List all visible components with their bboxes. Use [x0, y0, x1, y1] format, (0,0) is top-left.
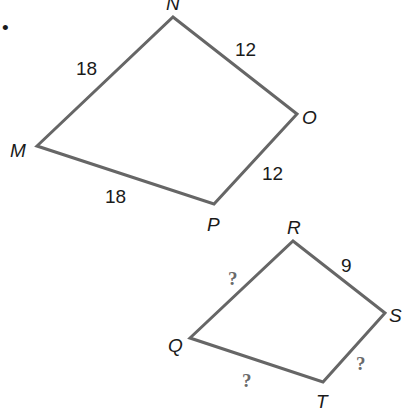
- side-tq-unknown: ?: [242, 370, 252, 391]
- side-mn-length: 18: [76, 58, 97, 79]
- bullet-dot: •: [2, 17, 9, 38]
- side-st-unknown: ?: [356, 353, 366, 374]
- side-qr-unknown: ?: [228, 268, 238, 289]
- side-op-length: 12: [262, 163, 283, 184]
- side-rs-length: 9: [341, 255, 352, 276]
- vertex-m-label: M: [10, 140, 26, 161]
- vertex-n-label: N: [166, 0, 180, 14]
- vertex-q-label: Q: [168, 335, 183, 356]
- kite-mnop: [37, 17, 297, 204]
- side-no-length: 12: [235, 39, 256, 60]
- vertex-r-label: R: [287, 217, 301, 238]
- side-pm-length: 18: [105, 186, 126, 207]
- vertex-s-label: S: [389, 305, 402, 326]
- vertex-p-label: P: [207, 214, 220, 235]
- vertex-t-label: T: [316, 391, 329, 412]
- similar-kites-diagram: • N M O P 18 12 12 18 R S T Q ? 9 ? ?: [0, 0, 403, 419]
- vertex-o-label: O: [302, 107, 317, 128]
